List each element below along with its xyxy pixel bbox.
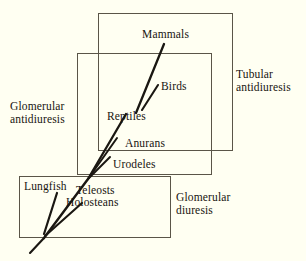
- kidney-function-evolution-diagram: TubularantidiuresisGlomerularantidiuresi…: [0, 0, 306, 261]
- region-label-line2: diuresis: [176, 204, 231, 217]
- region-label-line2: antidiuresis: [236, 81, 291, 94]
- region-label-line1: Glomerular: [10, 100, 65, 112]
- region-label-tubular-antidiuresis: Tubularantidiuresis: [236, 68, 291, 93]
- taxon-label-lungfish: Lungfish: [24, 180, 67, 193]
- region-label-glomerular-diuresis: Glomerulardiuresis: [176, 191, 231, 216]
- taxon-label-anurans: Anurans: [125, 137, 165, 150]
- trunk-lower: [30, 238, 44, 253]
- region-label-line2: antidiuresis: [10, 113, 65, 126]
- region-label-line1: Tubular: [236, 68, 273, 80]
- taxon-label-teleosts: Teleosts: [76, 184, 115, 197]
- taxon-label-reptiles: Reptiles: [107, 110, 146, 123]
- region-label-line1: Glomerular: [176, 191, 231, 203]
- taxon-label-mammals: Mammals: [142, 28, 189, 41]
- taxon-label-urodeles: Urodeles: [113, 158, 156, 171]
- branch-mammals: [136, 44, 164, 113]
- region-label-glomerular-antidiuresis: Glomerularantidiuresis: [10, 100, 65, 125]
- taxon-label-holosteans: Holosteans: [66, 196, 119, 209]
- taxon-label-birds: Birds: [161, 80, 187, 93]
- branch-birds: [142, 85, 158, 110]
